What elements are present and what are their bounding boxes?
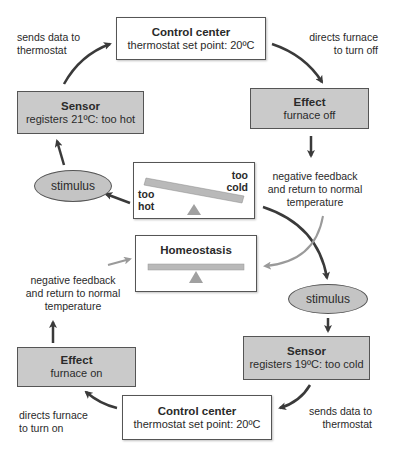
sensor-too-cold-box: Sensor registers 19ºC: too cold	[243, 336, 370, 380]
feedback-label-bottom: negative feedback and return to normal t…	[18, 274, 128, 313]
arrow-imbalance-to-stimulus-bottom	[263, 207, 327, 278]
sensor-title: Sensor	[61, 100, 100, 113]
arrow-imbalance-to-stimulus-top	[106, 194, 130, 203]
sensor-detail: registers 19ºC: too cold	[249, 358, 363, 371]
effect-title: Effect	[61, 354, 93, 367]
sensor-title: Sensor	[287, 345, 326, 358]
feedback-label-top: negative feedback and return to normal t…	[250, 170, 380, 209]
effect-title: Effect	[294, 96, 326, 109]
arrow-control-to-effect-bottom	[86, 392, 117, 408]
sends-data-label-top: sends data to thermostat	[17, 31, 80, 57]
arrows-layer	[0, 0, 393, 456]
control-center-title: Control center	[152, 26, 231, 39]
balanced-seesaw-icon	[136, 236, 258, 293]
homeostasis-diagram: Control center thermostat set point: 20º…	[0, 0, 393, 456]
arrow-feedback-to-homeostasis-left	[108, 259, 130, 265]
tilted-seesaw-icon	[134, 163, 256, 220]
effect-detail: furnace off	[284, 109, 336, 122]
effect-furnace-off-box: Effect furnace off	[250, 88, 369, 129]
directs-label-bottom: directs furnace to turn on	[19, 409, 88, 435]
control-center-title: Control center	[158, 405, 237, 418]
control-center-detail: thermostat set point: 20ºC	[128, 39, 255, 52]
sensor-too-hot-box: Sensor registers 21ºC: too hot	[17, 91, 144, 134]
control-center-bottom-box: Control center thermostat set point: 20º…	[122, 395, 272, 440]
homeostasis-box: Homeostasis	[135, 235, 257, 292]
arrow-stimulus-to-sensor-top	[57, 141, 64, 165]
sensor-detail: registers 21ºC: too hot	[26, 113, 135, 126]
sends-data-label-bottom: sends data to thermostat	[286, 405, 372, 431]
stimulus-top-ellipse: stimulus	[34, 170, 112, 202]
control-center-detail: thermostat set point: 20ºC	[134, 418, 261, 431]
effect-furnace-on-box: Effect furnace on	[17, 347, 136, 387]
control-center-top-box: Control center thermostat set point: 20º…	[116, 17, 266, 60]
effect-detail: furnace on	[51, 367, 103, 380]
imbalance-seesaw-box: too hot too cold	[133, 162, 255, 219]
directs-label-top: directs furnace to turn off	[286, 31, 378, 57]
stimulus-bottom-ellipse: stimulus	[288, 284, 368, 314]
